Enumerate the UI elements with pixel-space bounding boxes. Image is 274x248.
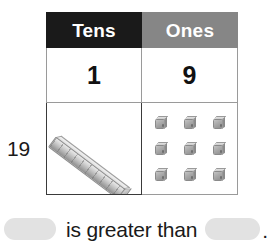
- cube-side-face: [193, 142, 196, 154]
- cube-side-face: [193, 116, 196, 128]
- cube-shading-dot: [191, 176, 194, 179]
- cube-side-face: [222, 168, 225, 180]
- digit-tens: 1: [87, 63, 101, 88]
- unit-cube-icon: [183, 142, 196, 155]
- comparison-sentence: is greater than .: [0, 214, 274, 244]
- cube-shading-dot: [220, 150, 223, 153]
- cube-side-face: [222, 142, 225, 154]
- cube-side-face: [193, 168, 196, 180]
- column-header-ones-label: Ones: [166, 21, 214, 40]
- comparison-phrase: is greater than: [66, 219, 197, 240]
- manipulative-cell-ones: [142, 103, 238, 195]
- table-manipulative-row: [46, 103, 238, 195]
- column-header-tens-label: Tens: [72, 21, 116, 40]
- cube-shading-dot: [162, 124, 165, 127]
- cube-shading-dot: [191, 150, 194, 153]
- manipulative-cell-tens: [46, 103, 142, 195]
- unit-cube-icon: [154, 142, 167, 155]
- sentence-period: .: [262, 220, 268, 241]
- unit-cube-icon: [154, 168, 167, 181]
- cube-side-face: [164, 168, 167, 180]
- column-header-tens: Tens: [46, 12, 142, 48]
- cube-shading-dot: [162, 150, 165, 153]
- unit-cube-icon: [154, 116, 167, 129]
- answer-blank-left[interactable]: [4, 218, 56, 240]
- unit-cube-icon: [183, 168, 196, 181]
- cube-shading-dot: [162, 176, 165, 179]
- base-ten-rod-icon: [48, 137, 126, 195]
- digit-ones: 9: [183, 63, 197, 88]
- cube-shading-dot: [220, 176, 223, 179]
- unit-cube-icon: [183, 116, 196, 129]
- digit-cell-ones: 9: [142, 48, 238, 103]
- rod-front-face: [48, 137, 126, 195]
- cube-shading-dot: [220, 124, 223, 127]
- tens-rod-group: [47, 103, 141, 194]
- table-digit-row: 1 9: [46, 48, 238, 103]
- row-number-label: 19: [7, 138, 30, 159]
- cube-side-face: [222, 116, 225, 128]
- unit-cube-icon: [212, 142, 225, 155]
- column-header-ones: Ones: [142, 12, 238, 48]
- cube-side-face: [164, 116, 167, 128]
- table-header-row: Tens Ones: [46, 12, 238, 48]
- answer-blank-right[interactable]: [205, 218, 260, 240]
- cube-shading-dot: [191, 124, 194, 127]
- digit-cell-tens: 1: [46, 48, 142, 103]
- cube-side-face: [164, 142, 167, 154]
- place-value-table: Tens Ones 1 9: [46, 12, 238, 195]
- unit-cube-icon: [212, 168, 225, 181]
- ones-cubes-group: [152, 114, 228, 184]
- unit-cube-icon: [212, 116, 225, 129]
